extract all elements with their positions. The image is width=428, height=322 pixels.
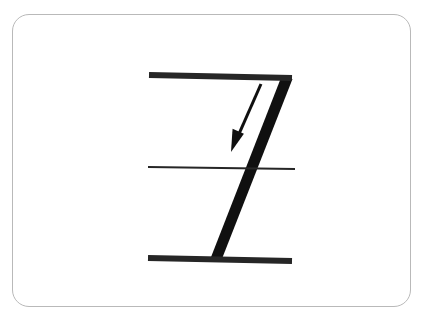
screenshot-root: Stroke direction guide card Bold letter … [0,0,428,322]
arrow-shaft [237,84,261,137]
stroke-diagram-canvas [0,0,428,322]
middle-rule-line [148,167,295,169]
bottom-rule-line [148,258,292,261]
top-rule-line [149,75,292,78]
arrow-head-icon [231,129,244,152]
